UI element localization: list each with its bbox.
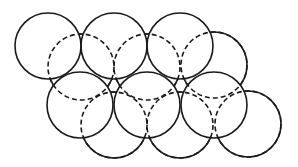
circle-packing-diagram bbox=[0, 0, 298, 167]
lower-circle-solid bbox=[215, 91, 281, 157]
lower-circle-solid bbox=[181, 32, 247, 98]
upper-circle bbox=[47, 72, 113, 138]
upper-circle bbox=[181, 72, 247, 138]
